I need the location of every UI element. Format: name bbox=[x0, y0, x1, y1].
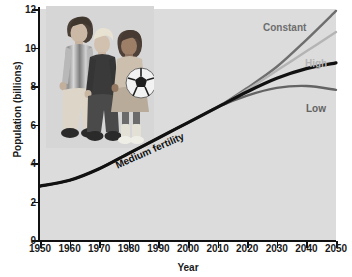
series-label-constant: Constant bbox=[263, 22, 306, 33]
series-label-low: Low bbox=[306, 103, 326, 114]
x-tick-labels: 1950196019701980199020002010202020302040… bbox=[0, 243, 344, 259]
series-label-high: High bbox=[305, 58, 327, 69]
y-tick-label: 12 bbox=[16, 4, 36, 15]
series-line-low bbox=[40, 86, 336, 186]
y-tick-label: 2 bbox=[16, 196, 36, 207]
x-axis-line bbox=[38, 240, 336, 242]
x-tick-label: 2050 bbox=[316, 243, 352, 254]
series-line-medium-fertility bbox=[40, 63, 336, 186]
y-axis-title: Population (billions) bbox=[12, 35, 23, 185]
series-line-constant bbox=[40, 11, 336, 186]
x-axis-title: Year bbox=[40, 262, 336, 273]
